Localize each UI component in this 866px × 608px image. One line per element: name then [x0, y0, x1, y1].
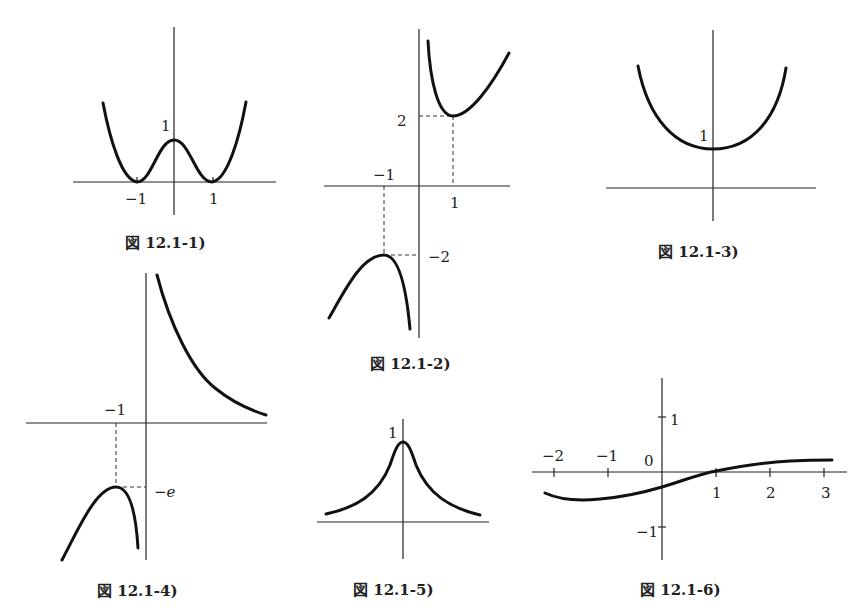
- caption: 図 12.1-2): [370, 355, 451, 373]
- label-x-1: 1: [209, 190, 219, 208]
- figure-12-1-6: −2 −1 0 1 2 3 1 −1 図 12.1-6): [532, 378, 847, 599]
- guide-dash: [116, 423, 146, 487]
- curve: [545, 460, 832, 500]
- label-x-minus-2: −2: [542, 447, 564, 465]
- label-x-1: 1: [450, 194, 460, 212]
- label-y-minus-1: −1: [636, 523, 658, 541]
- label-y-2: 2: [397, 112, 407, 130]
- caption: 図 12.1-5): [353, 581, 434, 599]
- curve-lower: [329, 255, 410, 329]
- label-x-2: 2: [766, 484, 776, 502]
- figure-12-1-1: 1 −1 1 図 12.1-1): [73, 27, 276, 252]
- label-y-minus-2: −2: [428, 248, 450, 266]
- label-y-1: 1: [388, 424, 398, 442]
- figure-12-1-3: 1 図 12.1-3): [606, 30, 816, 261]
- figure-12-1-5: 1 図 12.1-5): [317, 419, 489, 599]
- label-x-minus-1: −1: [104, 401, 126, 419]
- label-x-minus-1: −1: [373, 166, 395, 184]
- figure-canvas: 1 −1 1 図 12.1-1) 2 −1 1 −2 図 12.1-2) 1 図…: [0, 0, 866, 608]
- label-x-3: 3: [821, 484, 831, 502]
- label-x-1: 1: [712, 484, 722, 502]
- label-y-1: 1: [161, 117, 171, 135]
- label-x-0: 0: [644, 452, 654, 470]
- curve-lower: [62, 487, 138, 560]
- label-y-1: 1: [670, 411, 680, 429]
- label-x-minus-1: −1: [596, 447, 618, 465]
- guide-dash: [384, 186, 419, 255]
- label-y-minus-e: −e: [154, 483, 176, 501]
- figure-12-1-2: 2 −1 1 −2 図 12.1-2): [324, 29, 510, 373]
- figure-12-1-4: −1 −e 図 12.1-4): [26, 273, 267, 600]
- curve: [638, 66, 786, 149]
- caption: 図 12.1-3): [658, 243, 739, 261]
- caption: 図 12.1-4): [97, 582, 178, 600]
- caption: 図 12.1-6): [640, 581, 721, 599]
- caption: 図 12.1-1): [125, 234, 206, 252]
- curve-upper: [428, 41, 509, 116]
- label-x-minus-1: −1: [125, 190, 147, 208]
- guide-dash: [419, 116, 453, 186]
- curve-upper: [157, 275, 266, 415]
- label-y-1: 1: [699, 127, 709, 145]
